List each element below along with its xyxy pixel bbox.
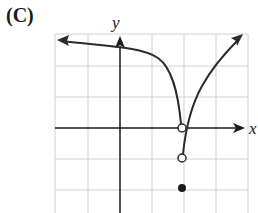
left-branch-curve — [62, 41, 181, 124]
open-point-upper — [178, 124, 186, 132]
filled-point — [178, 184, 186, 192]
x-axis-label: x — [248, 119, 257, 138]
open-point-lower — [178, 154, 186, 162]
y-axis — [115, 36, 125, 213]
left-branch-arrow-icon — [57, 35, 69, 46]
function-graph: x y — [0, 0, 258, 213]
y-axis-label: y — [110, 13, 120, 32]
